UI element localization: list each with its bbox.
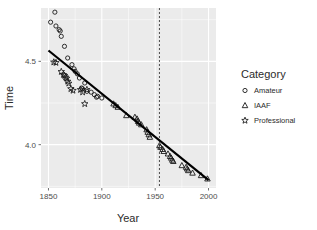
legend-entry-amateur[interactable]: Amateur bbox=[243, 86, 283, 95]
legend-entries: AmateurIAAFProfessional bbox=[242, 86, 296, 125]
data-point-triangle bbox=[242, 103, 248, 108]
chart-figure: 18501900195020004.04.5 Year Time Categor… bbox=[0, 0, 317, 230]
legend-title: Category bbox=[241, 68, 286, 80]
legend: Category AmateurIAAFProfessional bbox=[241, 68, 296, 125]
x-tick-label: 1900 bbox=[93, 192, 111, 201]
y-axis-title: Time bbox=[3, 86, 15, 110]
legend-entry-iaaf[interactable]: IAAF bbox=[242, 101, 271, 110]
y-tick-label: 4.5 bbox=[25, 57, 37, 66]
legend-entry-label: IAAF bbox=[254, 101, 271, 110]
legend-entry-professional[interactable]: Professional bbox=[242, 116, 296, 125]
x-tick-label: 2000 bbox=[200, 192, 218, 201]
scatter-plot-svg: 18501900195020004.04.5 Year Time Categor… bbox=[0, 0, 317, 230]
legend-entry-label: Amateur bbox=[254, 86, 283, 95]
x-tick-label: 1850 bbox=[40, 192, 58, 201]
data-point-circle bbox=[243, 88, 247, 92]
legend-entry-label: Professional bbox=[254, 116, 296, 125]
x-tick-label: 1950 bbox=[146, 192, 164, 201]
x-axis-title: Year bbox=[117, 212, 140, 224]
y-tick-label: 4.0 bbox=[25, 141, 37, 150]
data-point-star bbox=[242, 117, 248, 123]
